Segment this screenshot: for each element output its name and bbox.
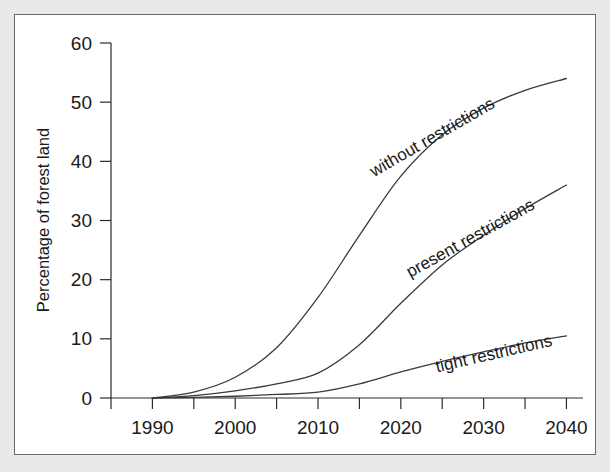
x-tick-label: 2010: [297, 417, 339, 438]
y-axis-title: Percentage of forest land: [34, 128, 52, 312]
y-axis: 0102030405060 Percentage of forest land: [34, 33, 111, 409]
y-tick-label: 50: [71, 92, 92, 113]
x-axis: 199020002010202020302040: [111, 398, 588, 438]
y-tick-label: 0: [81, 388, 92, 409]
series-label-0: without restrictions: [366, 94, 498, 181]
x-tick-label: 2000: [214, 417, 256, 438]
line-chart: 0102030405060 Percentage of forest land …: [15, 15, 597, 456]
y-tick-label: 30: [71, 210, 92, 231]
y-tick-label: 10: [71, 328, 92, 349]
x-tick-label: 2030: [462, 417, 504, 438]
x-tick-label: 1990: [131, 417, 173, 438]
series-label-2: tight restrictions: [434, 331, 554, 376]
y-tick-group: 0102030405060: [71, 33, 111, 409]
x-tick-label: 2020: [380, 417, 422, 438]
x-tick-group: 199020002010202020302040: [111, 398, 588, 438]
y-tick-label: 20: [71, 269, 92, 290]
curve-label-group: without restrictionspresent restrictions…: [366, 94, 554, 376]
figure-frame: 0102030405060 Percentage of forest land …: [14, 14, 596, 455]
x-tick-label: 2040: [545, 417, 587, 438]
y-tick-label: 60: [71, 33, 92, 54]
y-tick-label: 40: [71, 151, 92, 172]
series-label-1: present restrictions: [403, 195, 538, 281]
